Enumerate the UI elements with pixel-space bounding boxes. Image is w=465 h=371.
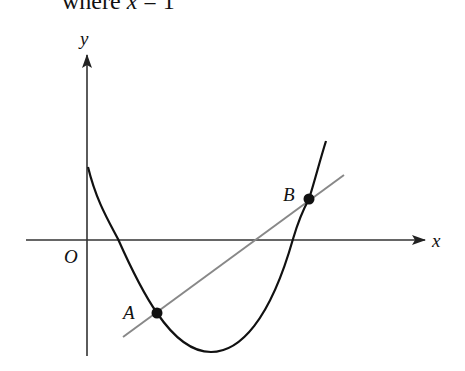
origin-label: O [64,246,78,267]
point-b-marker [304,194,315,205]
point-a-label: A [121,302,135,323]
point-b-label: B [283,184,295,205]
y-axis-label: y [78,28,89,49]
graph-diagram: y x O A B [0,0,465,371]
x-axis-label: x [431,230,441,251]
point-a-marker [152,308,163,319]
